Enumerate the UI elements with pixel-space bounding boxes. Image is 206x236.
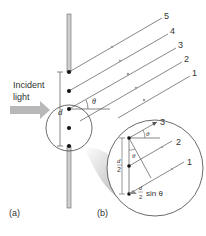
zoom-detail-circle [107, 120, 203, 216]
barrier-bottom [67, 146, 71, 208]
svg-text:5: 5 [164, 11, 169, 21]
ray-labels: 5 4 3 2 1 [164, 11, 197, 78]
svg-text:1: 1 [187, 157, 192, 167]
svg-text:3: 3 [178, 40, 183, 50]
ray-1 [118, 76, 190, 118]
incident-light-arrow [10, 101, 50, 119]
svg-text:4: 4 [170, 26, 175, 36]
svg-text:3: 3 [160, 117, 165, 127]
svg-text:sin θ: sin θ [146, 189, 163, 198]
ray-4 [69, 34, 168, 91]
panel-a-label: (a) [9, 208, 20, 218]
incident-label-line2: light [13, 92, 30, 102]
slit-width-label: d [58, 107, 63, 117]
ray-3 [69, 48, 176, 109]
barrier-top [67, 14, 71, 72]
single-slit-diagram: Incident light d 5 4 3 2 1 θ [0, 0, 206, 236]
angle-label: θ [92, 97, 96, 106]
incident-label-line1: Incident [13, 80, 45, 90]
svg-text:θ: θ [132, 152, 136, 160]
svg-text:1: 1 [192, 68, 197, 78]
panel-b-label: (b) [97, 208, 108, 218]
slit-source-points [67, 70, 71, 148]
ray-2 [80, 62, 182, 121]
svg-text:θ: θ [146, 130, 150, 138]
svg-text:2: 2 [184, 54, 189, 64]
half-width-den: 2 [117, 166, 121, 173]
svg-text:2: 2 [176, 137, 181, 147]
angle-indicator [69, 100, 110, 109]
half-width-num: d [117, 157, 121, 165]
